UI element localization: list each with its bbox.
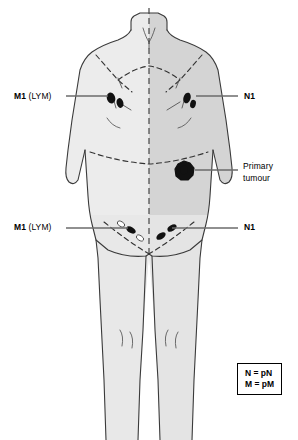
label-primary-tumour-line1: Primary bbox=[243, 160, 298, 172]
tnm-staging-diagram: M1 (LYM) N1 Primary tumour M1 (LYM) N1 N… bbox=[0, 0, 298, 440]
label-m1-groin: M1 (LYM) bbox=[14, 222, 52, 233]
label-m1-groin-qualifier: (LYM) bbox=[28, 222, 51, 232]
label-m1-groin-code: M1 bbox=[14, 222, 26, 232]
label-primary-tumour-line2: tumour bbox=[243, 172, 298, 184]
label-m1-axilla-code: M1 bbox=[14, 91, 26, 101]
label-n1-axilla: N1 bbox=[244, 91, 255, 102]
label-m1-axilla: M1 (LYM) bbox=[14, 91, 52, 102]
legend-row-n: N = pN bbox=[245, 368, 274, 379]
primary-tumour-marker bbox=[175, 161, 194, 180]
label-primary-tumour: Primary tumour bbox=[243, 160, 298, 184]
legend-row-m: M = pM bbox=[245, 379, 274, 390]
legend-box: N = pN M = pM bbox=[237, 363, 282, 395]
label-n1-groin: N1 bbox=[244, 222, 255, 233]
label-m1-axilla-qualifier: (LYM) bbox=[28, 91, 51, 101]
